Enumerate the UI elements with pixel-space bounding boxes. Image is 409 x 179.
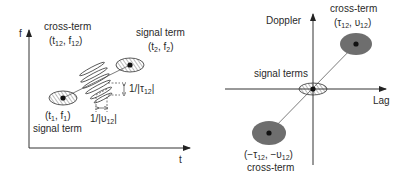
signal-terms-label: signal terms — [254, 68, 308, 79]
cross-term-top-marker — [340, 33, 372, 55]
cross-term-coords: (t12, f12) — [49, 35, 82, 47]
doppler-axis-label: Doppler — [266, 15, 302, 26]
signal-term-1-coords: (t1, f1) — [45, 110, 71, 122]
cross-term-top-coords: (τ12, υ12) — [334, 17, 371, 29]
signal-term-2-coords: (t2, f2) — [148, 41, 174, 53]
cross-term-top-label: cross-term — [330, 3, 377, 14]
signal-term-1-marker — [49, 91, 77, 105]
cross-term-bottom-coords: (−τ12, −υ12) — [244, 149, 293, 161]
cross-term-bottom-label: cross-term — [247, 162, 294, 173]
t-axis-label: t — [179, 154, 182, 165]
diagram-canvas: f t cross-term (t12, f12) signal term (t… — [0, 0, 409, 179]
signal-terms-marker — [299, 83, 327, 95]
tau-spacing-label: 1/|τ12| — [129, 83, 154, 95]
lag-axis-label: Lag — [373, 95, 390, 106]
cross-term-bottom-marker — [252, 121, 286, 145]
ambiguity-panel: Doppler Lag cross-term (τ12, υ12) signal… — [225, 3, 390, 173]
cross-term-label: cross-term — [44, 21, 91, 32]
signal-term-2-label: signal term — [136, 27, 185, 38]
f-axis-label: f — [19, 28, 22, 39]
nu-spacing-label: 1/|υ12| — [90, 113, 117, 125]
time-frequency-panel: f t cross-term (t12, f12) signal term (t… — [19, 21, 190, 165]
signal-term-2-marker — [116, 58, 144, 72]
signal-term-1-label: signal term — [33, 123, 82, 134]
